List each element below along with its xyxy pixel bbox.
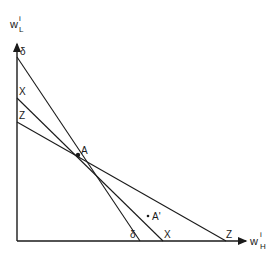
- svg-text:L: L: [19, 25, 24, 34]
- line-delta: δ δ: [17, 46, 140, 241]
- diagram-canvas: w i L w i H δ δ X X Z Z A A': [0, 0, 279, 256]
- svg-text:X: X: [19, 86, 26, 97]
- svg-text:Z: Z: [19, 110, 25, 121]
- y-axis-label: w i L: [9, 14, 24, 34]
- line-x: X X: [17, 86, 171, 241]
- svg-text:δ: δ: [20, 46, 26, 57]
- svg-text:δ: δ: [130, 229, 136, 240]
- svg-text:H: H: [260, 242, 266, 251]
- x-axis-label: w i H: [249, 230, 266, 251]
- svg-text:A': A': [152, 211, 161, 222]
- svg-text:w: w: [9, 18, 18, 30]
- svg-text:X: X: [164, 229, 171, 240]
- svg-text:i: i: [260, 230, 262, 239]
- svg-text:i: i: [19, 14, 21, 23]
- svg-text:A: A: [81, 145, 88, 156]
- svg-text:Z: Z: [226, 229, 232, 240]
- point-a-prime: A': [147, 211, 161, 222]
- svg-text:w: w: [249, 235, 258, 247]
